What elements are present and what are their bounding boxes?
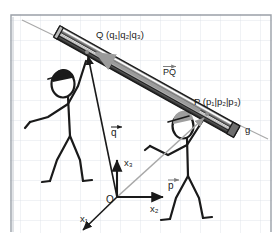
point-q-marker bbox=[85, 50, 89, 54]
vector-p-label: p bbox=[168, 180, 174, 191]
vector-diagram: Q (q₁|q₂|q₃) P (p₁|p₂|p₃) g PQ q p O x₂ … bbox=[0, 0, 280, 233]
left-person-right-foot bbox=[83, 180, 92, 181]
vector-q-label: q bbox=[111, 127, 117, 138]
line-g-label: g bbox=[245, 124, 250, 135]
axis-x1-label: x₁ bbox=[80, 213, 88, 224]
axis-x2-label: x₂ bbox=[150, 203, 159, 214]
vector-pq-label-group: PQ bbox=[163, 67, 176, 78]
point-p-label: P (p₁|p₂|p₃) bbox=[194, 96, 241, 107]
right-person-left-foot bbox=[161, 219, 170, 220]
vector-pq-label: PQ bbox=[163, 67, 176, 77]
point-p-marker bbox=[205, 112, 209, 116]
axis-x3-label: x₃ bbox=[124, 157, 133, 168]
figure-canvas: Q (q₁|q₂|q₃) P (p₁|p₂|p₃) g PQ q p O x₂ … bbox=[0, 0, 280, 233]
point-q-label: Q (q₁|q₂|q₃) bbox=[96, 29, 144, 40]
left-person-left-foot bbox=[42, 181, 50, 182]
right-person-right-foot bbox=[203, 217, 212, 218]
origin-label: O bbox=[106, 194, 114, 205]
